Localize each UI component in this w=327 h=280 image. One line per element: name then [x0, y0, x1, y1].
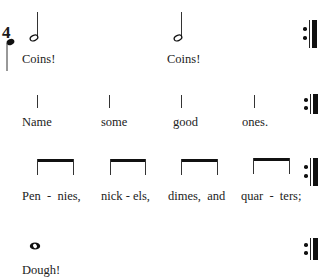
end-repeat-barline-icon [303, 20, 317, 48]
stem-icon [109, 95, 110, 108]
stem-icon [181, 95, 182, 108]
beamed-eighth-notes-icon [181, 159, 218, 175]
end-repeat-barline-icon [304, 238, 318, 260]
lyric: ones. [242, 115, 268, 129]
lyric: Coins! [22, 52, 55, 66]
beamed-eighth-notes-icon [37, 159, 74, 175]
beamed-eighth-notes-icon [253, 158, 290, 174]
lyric: nick - els, [101, 189, 150, 203]
quarter-note-icon [4, 38, 16, 72]
lyric: dimes, and [168, 189, 225, 203]
stem-icon [254, 95, 255, 108]
half-note-icon [172, 12, 184, 42]
whole-note-icon [29, 241, 43, 251]
end-repeat-barline-icon [304, 158, 318, 186]
stem-icon [37, 95, 38, 108]
lyric: Coins! [167, 52, 200, 66]
end-repeat-barline-icon [304, 94, 318, 114]
lyric: Name [22, 115, 52, 129]
lyric: quar - ters; [241, 189, 301, 203]
lyric: some [101, 115, 127, 129]
lyric: good [173, 115, 198, 129]
beamed-eighth-notes-icon [110, 159, 146, 175]
lyric: Pen - nies, [22, 189, 81, 203]
lyric: Dough! [22, 263, 60, 277]
half-note-icon [28, 12, 40, 42]
